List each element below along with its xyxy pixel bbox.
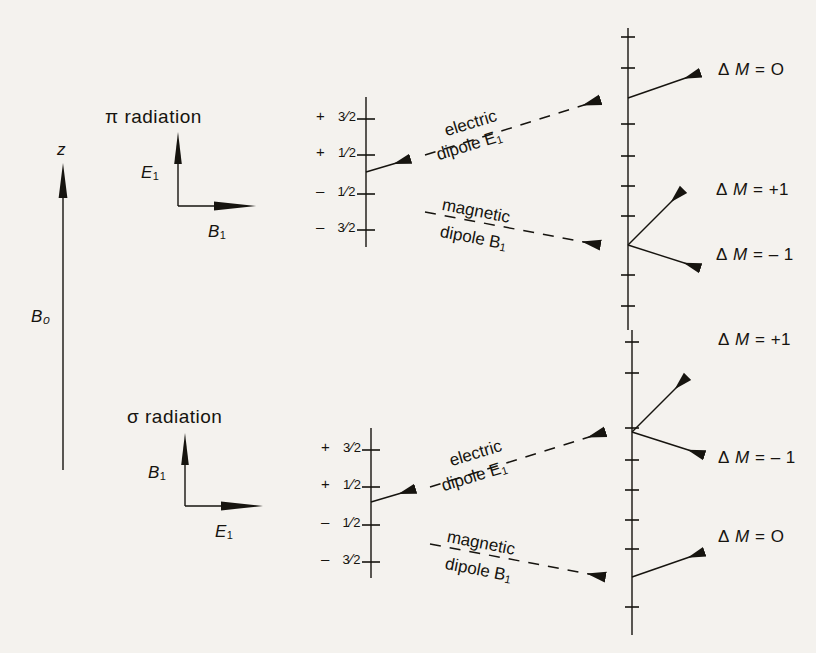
sigma-outcome-axis: [625, 330, 639, 635]
z-axis-label: z: [57, 140, 66, 160]
sigma-outcome-arrow-dm0: [632, 552, 704, 577]
pi-radiation-heading: π radiation: [105, 106, 202, 128]
pi-e1-label: E1: [141, 163, 159, 183]
sigma-vector-cross: [181, 433, 263, 510]
pi-e1-arrowhead: [174, 132, 182, 164]
pi-outcome-arrow-dmplus1: [628, 190, 683, 245]
sigma-level-ladder: [362, 428, 380, 578]
pi-outcome-axis: [621, 28, 635, 330]
pi-outcome-label-dmminus1: Δ M = – 1: [716, 245, 794, 265]
sigma-level-label: + 3⁄2: [321, 438, 361, 455]
b0-field-label: B₀: [31, 307, 51, 327]
sigma-source-arrows: [371, 489, 415, 502]
sigma-outcome-label-dm0: Δ M = O: [718, 527, 784, 547]
sigma-e1-label: E1: [215, 522, 233, 542]
sigma-outcome-arrow-dmminus1: [632, 432, 704, 455]
pi-level-label: + 1⁄2: [316, 143, 356, 160]
sigma-outcome-label-dmminus1: Δ M = – 1: [718, 448, 796, 468]
pi-level-label: – 3⁄2: [316, 218, 356, 235]
sigma-level-label: – 1⁄2: [321, 513, 361, 530]
sigma-radiation-heading: σ radiation: [127, 406, 222, 428]
field-arrowhead: [59, 163, 68, 198]
sigma-level-label: – 3⁄2: [321, 550, 361, 567]
sigma-outcome-label-dmplus1: Δ M = +1: [718, 330, 791, 350]
sigma-b1-arrowhead: [181, 433, 189, 465]
pi-outcome-label-dmplus1: Δ M = +1: [716, 180, 789, 200]
pi-outcome-label-dm0: Δ M = O: [718, 60, 784, 80]
zeeman-transition-diagram: [0, 0, 816, 653]
pi-b1-arrowhead: [214, 202, 256, 211]
sigma-e1-arrowhead: [221, 502, 263, 511]
sigma-outcome-arrow-dmplus1: [632, 377, 687, 432]
sigma-b1-label: B1: [148, 463, 166, 483]
pi-level-label: – 1⁄2: [316, 182, 356, 199]
pi-outcome-arrow-dm0: [628, 73, 700, 98]
pi-level-label: + 3⁄2: [316, 107, 356, 124]
pi-vector-cross: [174, 132, 256, 210]
static-magnetic-field-axis: [59, 163, 68, 470]
pi-outcome-arrow-dmminus1: [628, 245, 700, 268]
sigma-level-label: + 1⁄2: [321, 475, 361, 492]
pi-b1-label: B1: [208, 222, 226, 242]
pi-source-arrows: [366, 159, 410, 172]
